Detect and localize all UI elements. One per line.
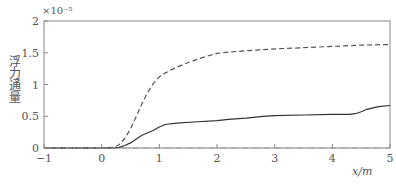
y-tick-label: 1 <box>32 79 39 92</box>
series-line-dashed <box>44 45 390 149</box>
y-tick-label: 2 <box>32 15 39 28</box>
x-tick-label: 0 <box>98 152 105 165</box>
y-axis-label: 浮力通量 <box>6 55 20 103</box>
line-chart: −101234500.511.52 ×10⁻⁵ x/m <box>0 0 396 184</box>
y-tick-label: 1.5 <box>22 47 40 60</box>
x-tick-label: 3 <box>271 152 278 165</box>
y-tick-label: 0 <box>32 142 39 155</box>
axis-ticks: −101234500.511.52 <box>22 15 394 165</box>
x-axis-label: x/m <box>352 165 372 178</box>
x-tick-label: 5 <box>387 152 394 165</box>
series-line-solid <box>44 106 390 149</box>
y-tick-label: 0.5 <box>22 110 40 123</box>
x-tick-label: 1 <box>156 152 163 165</box>
series-layer <box>44 45 390 149</box>
x-tick-label: 4 <box>329 152 336 165</box>
plot-area-border <box>44 21 390 148</box>
plot-frame <box>44 21 390 148</box>
y-multiplier-label: ×10⁻⁵ <box>42 5 72 16</box>
x-tick-label: 2 <box>214 152 221 165</box>
